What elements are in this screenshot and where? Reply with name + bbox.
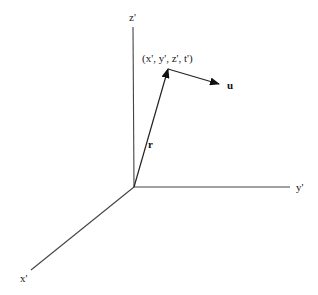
x-axis-label: x' bbox=[20, 272, 28, 284]
coordinate-diagram: z' y' x' r u (x', y', z', t') bbox=[0, 0, 318, 295]
diagram-svg: z' y' x' r u (x', y', z', t') bbox=[0, 0, 318, 295]
x-axis-line bbox=[31, 187, 134, 270]
position-vector-r bbox=[134, 69, 168, 187]
vector-u-label: u bbox=[227, 79, 233, 91]
z-axis-label: z' bbox=[129, 11, 136, 23]
y-axis-label: y' bbox=[296, 181, 304, 193]
z-axis-line bbox=[133, 27, 134, 187]
velocity-vector-u bbox=[168, 69, 219, 84]
event-coordinates-label: (x', y', z', t') bbox=[142, 52, 193, 65]
vector-r-label: r bbox=[148, 138, 153, 150]
